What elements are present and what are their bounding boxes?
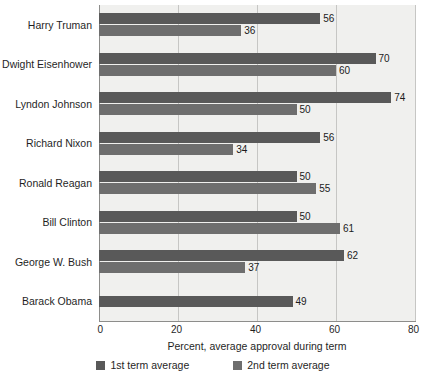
gridline-80 [415, 5, 416, 321]
category-label: Bill Clinton [0, 216, 92, 228]
bar-value-label: 34 [233, 144, 247, 155]
x-tick-label-0: 0 [97, 324, 103, 336]
bar-series-2 [99, 65, 336, 76]
legend-label-series-2: 2nd term average [247, 359, 329, 371]
bar-value-label: 56 [320, 13, 334, 24]
bar-value-label: 50 [297, 171, 311, 182]
bar-series-1 [99, 211, 297, 222]
category-label: Harry Truman [0, 19, 92, 31]
bar-series-1 [99, 296, 293, 307]
x-axis-line [99, 321, 416, 322]
bar-series-2 [99, 104, 297, 115]
category-label: Lyndon Johnson [0, 98, 92, 110]
bar-value-label: 61 [340, 223, 354, 234]
bar-series-1 [99, 13, 320, 24]
category-label: Ronald Reagan [0, 177, 92, 189]
bar-series-2 [99, 25, 241, 36]
approval-bar-chart: Harry Truman5636Dwight Eisenhower7060Lyn… [0, 0, 426, 377]
bar-series-1 [99, 53, 376, 64]
bar-value-label: 70 [376, 53, 390, 64]
bar-value-label: 49 [293, 296, 307, 307]
legend-label-series-1: 1st term average [110, 359, 189, 371]
bar-series-2 [99, 262, 245, 273]
category-label: George W. Bush [0, 256, 92, 268]
category-label: Dwight Eisenhower [0, 58, 92, 70]
bar-value-label: 50 [297, 104, 311, 115]
legend-item-series-1: 1st term average [96, 359, 189, 371]
bar-series-1 [99, 250, 344, 261]
bar-series-2 [99, 183, 316, 194]
x-axis-title: Percent, average approval during term [99, 340, 415, 353]
bar-series-1 [99, 92, 391, 103]
bar-value-label: 36 [241, 25, 255, 36]
chart-legend: 1st term average 2nd term average [0, 359, 426, 371]
x-tick-label-20: 20 [171, 324, 182, 336]
x-tick-label-40: 40 [250, 324, 261, 336]
bar-series-2 [99, 223, 340, 234]
x-tick-label-80: 80 [408, 324, 419, 336]
bar-series-1 [99, 171, 297, 182]
bar-series-1 [99, 132, 320, 143]
bar-value-label: 60 [336, 65, 350, 76]
bar-value-label: 37 [245, 262, 259, 273]
legend-swatch-icon-series-1 [96, 361, 105, 370]
bar-value-label: 74 [391, 92, 405, 103]
legend-item-series-2: 2nd term average [233, 359, 329, 371]
bar-value-label: 55 [316, 183, 330, 194]
category-label: Barack Obama [0, 295, 92, 307]
legend-swatch-icon-series-2 [233, 361, 242, 370]
x-tick-label-60: 60 [329, 324, 340, 336]
bar-value-label: 50 [297, 211, 311, 222]
bar-value-label: 62 [344, 250, 358, 261]
category-label: Richard Nixon [0, 137, 92, 149]
bar-value-label: 56 [320, 132, 334, 143]
bar-series-2 [99, 144, 233, 155]
